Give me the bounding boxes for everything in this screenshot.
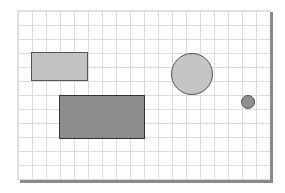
canvas-shadow-bottom: [20, 180, 273, 183]
light-rectangle[interactable]: [31, 52, 88, 81]
large-circle[interactable]: [171, 53, 213, 95]
small-circle[interactable]: [241, 95, 255, 109]
dark-rectangle[interactable]: [59, 95, 145, 139]
canvas-shadow-right: [270, 12, 273, 183]
